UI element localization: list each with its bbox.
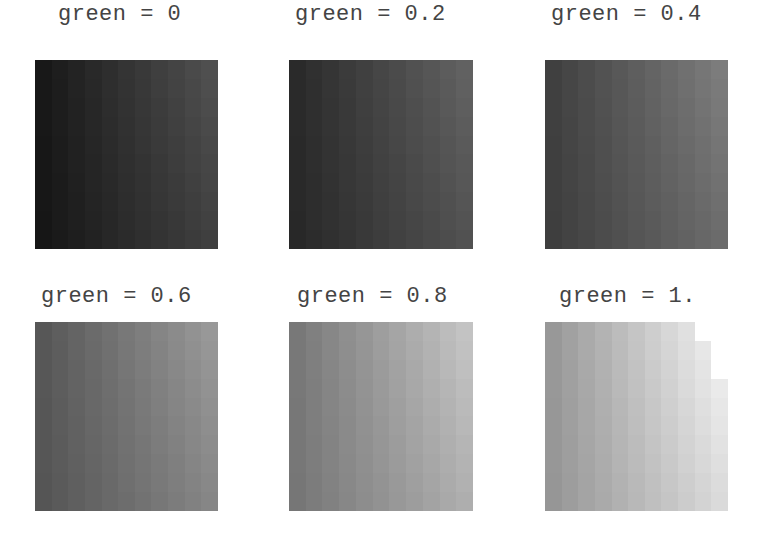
gradient-cell <box>85 473 102 492</box>
gradient-cell <box>645 360 662 379</box>
gradient-cell <box>695 60 712 79</box>
gradient-cell <box>389 322 406 341</box>
gradient-cell <box>168 98 185 117</box>
gradient-cell <box>612 154 629 173</box>
gradient-cell <box>645 211 662 230</box>
gradient-cell <box>645 60 662 79</box>
gradient-cell <box>168 154 185 173</box>
gradient-cell <box>356 60 373 79</box>
gradient-cell <box>389 79 406 98</box>
gradient-cell <box>678 416 695 435</box>
gradient-cell <box>645 454 662 473</box>
gradient-cell <box>578 379 595 398</box>
gradient-cell <box>356 492 373 511</box>
gradient-cell <box>52 341 69 360</box>
gradient-cell <box>612 322 629 341</box>
gradient-cell <box>35 322 52 341</box>
gradient-cell <box>201 230 218 249</box>
gradient-cell <box>440 454 457 473</box>
gradient-cell <box>578 117 595 136</box>
gradient-cell <box>118 492 135 511</box>
gradient-square <box>35 322 218 511</box>
gradient-cell <box>52 379 69 398</box>
gradient-cell <box>185 230 202 249</box>
gradient-cell <box>118 79 135 98</box>
gradient-cell <box>373 173 390 192</box>
gradient-cell <box>595 473 612 492</box>
gradient-cell <box>695 341 712 360</box>
gradient-cell <box>423 230 440 249</box>
gradient-cell <box>151 492 168 511</box>
gradient-cell <box>373 136 390 155</box>
gradient-cell <box>289 379 306 398</box>
gradient-cell <box>645 192 662 211</box>
gradient-cell <box>389 435 406 454</box>
gradient-cell <box>151 230 168 249</box>
gradient-cell <box>423 322 440 341</box>
gradient-cell <box>356 79 373 98</box>
gradient-cell <box>289 360 306 379</box>
gradient-square <box>289 60 473 249</box>
gradient-cell <box>35 398 52 417</box>
gradient-cell <box>306 98 323 117</box>
gradient-cell <box>578 154 595 173</box>
gradient-cell <box>356 117 373 136</box>
gradient-cell <box>645 79 662 98</box>
gradient-cell <box>85 173 102 192</box>
gradient-cell <box>423 379 440 398</box>
gradient-cell <box>306 192 323 211</box>
gradient-cell <box>678 79 695 98</box>
gradient-cell <box>85 117 102 136</box>
gradient-cell <box>678 60 695 79</box>
gradient-cell <box>151 360 168 379</box>
gradient-cell <box>306 154 323 173</box>
gradient-cell <box>612 117 629 136</box>
gradient-cell <box>595 230 612 249</box>
gradient-cell <box>102 398 119 417</box>
gradient-cell <box>289 398 306 417</box>
gradient-cell <box>545 416 562 435</box>
gradient-cell <box>423 154 440 173</box>
gradient-cell <box>306 473 323 492</box>
gradient-cell <box>373 398 390 417</box>
gradient-cell <box>306 492 323 511</box>
gradient-cell <box>595 79 612 98</box>
gradient-cell <box>406 230 423 249</box>
gradient-cell <box>545 192 562 211</box>
gradient-cell <box>406 136 423 155</box>
gradient-cell <box>595 136 612 155</box>
gradient-cell <box>306 341 323 360</box>
gradient-cell <box>545 79 562 98</box>
gradient-cell <box>168 473 185 492</box>
gradient-cell <box>151 416 168 435</box>
gradient-cell <box>456 117 473 136</box>
gradient-cell <box>406 322 423 341</box>
gradient-cell <box>562 60 579 79</box>
gradient-cell <box>423 435 440 454</box>
gradient-cell <box>456 341 473 360</box>
gradient-cell <box>118 117 135 136</box>
gradient-cell <box>118 136 135 155</box>
gradient-cell <box>118 379 135 398</box>
gradient-cell <box>678 230 695 249</box>
gradient-cell <box>456 192 473 211</box>
gradient-cell <box>562 379 579 398</box>
gradient-cell <box>102 473 119 492</box>
gradient-cell <box>85 379 102 398</box>
gradient-cell <box>711 154 728 173</box>
gradient-cell <box>373 454 390 473</box>
gradient-cell <box>68 435 85 454</box>
gradient-cell <box>339 398 356 417</box>
panel-label: green = 0.8 <box>297 284 448 309</box>
gradient-cell <box>628 492 645 511</box>
gradient-cell <box>456 492 473 511</box>
gradient-cell <box>440 230 457 249</box>
gradient-cell <box>440 435 457 454</box>
gradient-cell <box>645 416 662 435</box>
gradient-cell <box>562 230 579 249</box>
gradient-cell <box>322 192 339 211</box>
gradient-cell <box>185 341 202 360</box>
gradient-cell <box>661 192 678 211</box>
gradient-cell <box>289 492 306 511</box>
gradient-cell <box>201 117 218 136</box>
